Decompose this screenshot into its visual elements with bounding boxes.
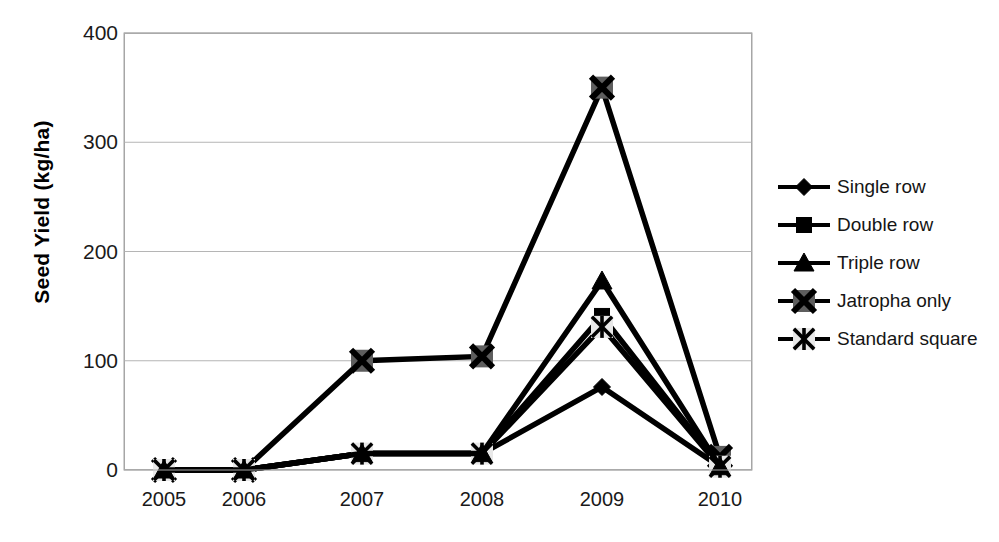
legend-label: Jatropha only	[837, 290, 951, 312]
legend-item[interactable]: Double row	[778, 206, 993, 244]
legend-item[interactable]: Standard square	[778, 320, 993, 358]
chart-container: Seed Yield (kg/ha) 0100200300400 2005200…	[0, 0, 999, 542]
legend-marker-square-icon	[778, 215, 830, 235]
marker-diamond	[796, 179, 813, 196]
legend-label: Single row	[837, 176, 926, 198]
x-tick-label: 2008	[437, 488, 527, 511]
legend-marker-glyph	[789, 248, 819, 278]
legend-marker-diamond-icon	[778, 177, 830, 197]
legend-marker-glyph	[789, 286, 819, 316]
series-line	[164, 387, 720, 470]
legend-label: Triple row	[837, 252, 920, 274]
x-tick-label: 2006	[199, 488, 289, 511]
marker-square	[797, 218, 812, 233]
series-line	[164, 281, 720, 470]
legend-marker-glyph	[789, 210, 819, 240]
x-tick-label: 2007	[317, 488, 407, 511]
legend-label: Double row	[837, 214, 933, 236]
legend-marker-asterisk-icon	[778, 329, 830, 349]
x-tick-label: 2010	[675, 488, 765, 511]
marker-triangle	[592, 271, 612, 289]
legend: Single rowDouble rowTriple rowJatropha o…	[778, 168, 993, 358]
marker-triangle	[794, 253, 814, 271]
series-jatropha-only	[153, 77, 731, 481]
x-tick-label: 2009	[557, 488, 647, 511]
legend-label: Standard square	[837, 328, 978, 350]
legend-item[interactable]: Single row	[778, 168, 993, 206]
legend-marker-glyph	[789, 324, 819, 354]
legend-marker-triangle-icon	[778, 253, 830, 273]
legend-marker-glyph	[789, 172, 819, 202]
legend-marker-x-box-icon	[778, 291, 830, 311]
legend-item[interactable]: Triple row	[778, 244, 993, 282]
legend-item[interactable]: Jatropha only	[778, 282, 993, 320]
series-line	[164, 327, 720, 470]
x-tick-label: 2005	[119, 488, 209, 511]
